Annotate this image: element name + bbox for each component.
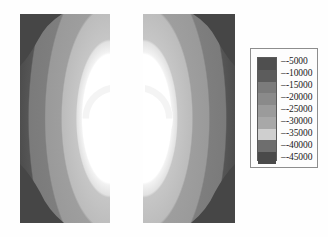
- figure-canvas: –-5000–-10000–-15000–-20000–-25000–-3000…: [0, 0, 328, 237]
- legend-swatch: [258, 93, 276, 105]
- legend-value: -45000: [286, 152, 312, 162]
- legend-inner: –-5000–-10000–-15000–-20000–-25000–-3000…: [257, 55, 312, 161]
- legend-value: -15000: [286, 80, 312, 90]
- legend-swatch: [258, 140, 276, 152]
- legend-value: -10000: [286, 68, 312, 78]
- legend-swatch-column: [257, 57, 277, 161]
- legend-swatch: [258, 70, 276, 82]
- right-plate-contours: [143, 14, 235, 223]
- legend-label-column: –-5000–-10000–-15000–-20000–-25000–-3000…: [281, 55, 312, 163]
- legend-swatch: [258, 129, 276, 141]
- legend-swatch: [258, 152, 276, 164]
- legend-label: –-25000: [281, 103, 312, 115]
- right-plate-panel: [143, 14, 235, 223]
- legend-label: –-45000: [281, 151, 312, 163]
- legend-label: –-20000: [281, 91, 312, 103]
- legend-label: –-5000: [281, 55, 308, 67]
- left-plate-panel: [20, 14, 110, 223]
- legend-value: -30000: [286, 116, 312, 126]
- legend-swatch: [258, 58, 276, 70]
- legend-value: -25000: [286, 104, 312, 114]
- legend-label: –-30000: [281, 115, 312, 127]
- legend-label: –-35000: [281, 127, 312, 139]
- legend-label: –-40000: [281, 139, 312, 151]
- left-plate-contours: [20, 14, 110, 223]
- legend-swatch: [258, 117, 276, 129]
- contour-legend: –-5000–-10000–-15000–-20000–-25000–-3000…: [250, 48, 318, 168]
- legend-value: -5000: [286, 56, 308, 66]
- legend-value: -35000: [286, 128, 312, 138]
- legend-value: -20000: [286, 92, 312, 102]
- legend-label: –-10000: [281, 67, 312, 79]
- legend-label: –-15000: [281, 79, 312, 91]
- legend-swatch: [258, 105, 276, 117]
- legend-swatch: [258, 82, 276, 94]
- legend-value: -40000: [286, 140, 312, 150]
